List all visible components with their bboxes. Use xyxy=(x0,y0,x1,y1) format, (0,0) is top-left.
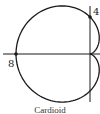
cardioid-diagram: 8 4 xyxy=(0,0,100,114)
figure-caption: Cardioid xyxy=(0,105,100,114)
point-0-4 xyxy=(88,15,92,19)
label-8: 8 xyxy=(8,58,14,69)
point-neg8-0 xyxy=(14,52,18,56)
label-4: 4 xyxy=(93,6,99,17)
